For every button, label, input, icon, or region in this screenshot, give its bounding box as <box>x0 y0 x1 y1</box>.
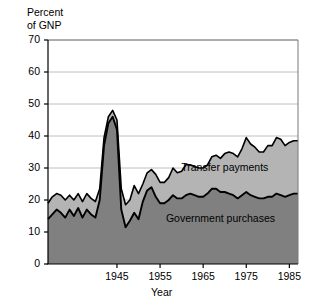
x-axis-tick-label: 1945 <box>97 270 137 282</box>
y-axis-tick-label: 50 <box>14 97 40 109</box>
y-axis-tick-label: 0 <box>14 257 40 269</box>
x-axis-tick-label: 1955 <box>140 270 180 282</box>
y-axis-tick-label: 30 <box>14 161 40 173</box>
chart-container: Percentof GNP 706050403020100 1945195519… <box>0 0 321 306</box>
label-government-purchases: Government purchases <box>166 212 275 224</box>
label-transfer-payments: Transfer payments <box>181 161 268 173</box>
x-axis-title: Year <box>151 286 172 299</box>
x-axis-tick-label: 1975 <box>226 270 266 282</box>
x-axis-tick-label: 1965 <box>183 270 223 282</box>
y-axis-tick-label: 20 <box>14 193 40 205</box>
x-axis-tick-label: 1985 <box>269 270 309 282</box>
y-axis-tick-label: 70 <box>14 33 40 45</box>
y-axis-tick-label: 10 <box>14 225 40 237</box>
y-axis-tick-label: 60 <box>14 65 40 77</box>
chart-plot-svg <box>0 0 321 306</box>
y-axis-tick-label: 40 <box>14 129 40 141</box>
